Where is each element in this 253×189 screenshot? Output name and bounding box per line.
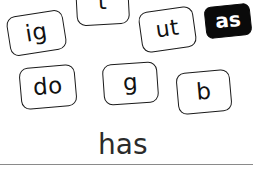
letter-tile-label: ig xyxy=(24,19,49,45)
letter-tile-label: g xyxy=(122,71,139,95)
letter-tile-g[interactable]: g xyxy=(102,61,160,106)
letter-tile-do[interactable]: do xyxy=(18,64,77,111)
letter-tile-ig[interactable]: ig xyxy=(5,9,68,57)
letter-tile-b[interactable]: b xyxy=(175,69,232,116)
letter-tile-ut[interactable]: ut xyxy=(137,5,197,53)
letter-tile-label: do xyxy=(32,73,64,98)
answer-word: has xyxy=(98,131,148,159)
letter-tile-t[interactable]: t xyxy=(75,0,130,26)
letter-tile-label: as xyxy=(214,9,241,32)
letter-tile-as[interactable]: as xyxy=(203,3,252,40)
letter-tile-label: b xyxy=(195,79,212,103)
letter-tile-label: t xyxy=(97,0,107,13)
worksheet-page: igtutasdogb has xyxy=(0,0,253,189)
writing-rule-line xyxy=(0,164,253,165)
letter-tile-label: ut xyxy=(154,16,180,41)
